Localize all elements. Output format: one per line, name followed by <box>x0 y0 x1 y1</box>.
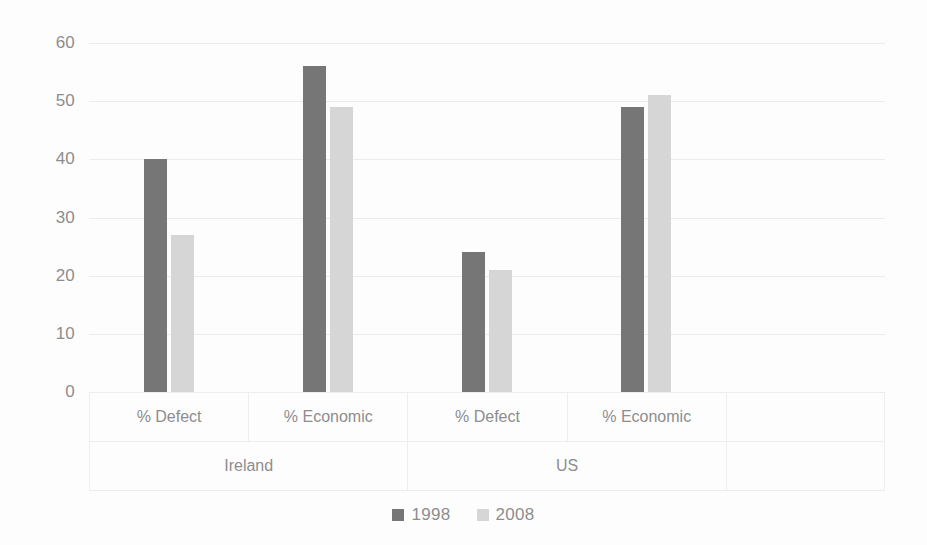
bar-1998-us-defect <box>462 252 485 392</box>
y-axis-tick-label: 50 <box>56 91 75 111</box>
category-row: % Defect% Economic% Defect% Economic <box>89 392 885 441</box>
y-axis-tick-label: 60 <box>56 33 75 53</box>
group-label: US <box>407 441 725 490</box>
category-label: % Economic <box>248 392 407 441</box>
y-axis-tick-label: 40 <box>56 149 75 169</box>
axis-separator <box>89 441 885 442</box>
bar-2008-us-defect <box>489 270 512 392</box>
bar-2008-us-economic <box>648 95 671 392</box>
legend-label: 2008 <box>496 505 535 525</box>
gridline-30 <box>89 218 885 219</box>
bar-1998-ireland-defect <box>144 159 167 392</box>
y-axis-tick-label: 10 <box>56 324 75 344</box>
group-row: IrelandUS <box>89 441 885 490</box>
y-axis: 6050403020100 <box>0 0 89 545</box>
bar-2008-ireland-economic <box>330 107 353 392</box>
bar-chart: 6050403020100 % Defect% Economic% Defect… <box>0 0 927 545</box>
y-axis-tick-label: 20 <box>56 266 75 286</box>
legend-item-2008[interactable]: 2008 <box>477 505 535 525</box>
gridline-10 <box>89 334 885 335</box>
axis-separator <box>89 490 885 491</box>
category-label <box>726 392 885 441</box>
category-label: % Defect <box>89 392 248 441</box>
category-label: % Economic <box>567 392 726 441</box>
legend-label: 1998 <box>411 505 450 525</box>
bar-2008-ireland-defect <box>171 235 194 392</box>
gridline-20 <box>89 276 885 277</box>
y-axis-tick-label: 30 <box>56 208 75 228</box>
legend-swatch-icon <box>392 509 404 521</box>
group-label: Ireland <box>89 441 407 490</box>
bar-1998-us-economic <box>621 107 644 392</box>
chart-legend: 19982008 <box>0 505 927 525</box>
category-label: % Defect <box>407 392 566 441</box>
gridline-60 <box>89 43 885 44</box>
legend-item-1998[interactable]: 1998 <box>392 505 450 525</box>
axis-separator <box>89 392 885 393</box>
group-label <box>726 441 885 490</box>
bar-1998-ireland-economic <box>303 66 326 392</box>
plot-area <box>89 43 885 392</box>
gridline-40 <box>89 159 885 160</box>
gridline-50 <box>89 101 885 102</box>
legend-swatch-icon <box>477 509 489 521</box>
y-axis-tick-label: 0 <box>65 382 75 402</box>
